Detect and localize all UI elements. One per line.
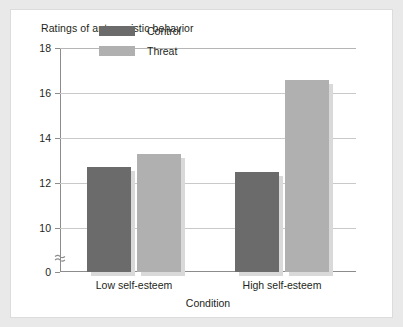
- x-axis-title: Condition: [186, 297, 230, 309]
- legend-label-threat: Threat: [147, 45, 177, 57]
- legend-item-threat: Threat: [99, 42, 181, 59]
- plot-area: 01012141618 Low self-esteemHigh self-est…: [60, 48, 356, 272]
- bar-threat-1: [137, 154, 181, 272]
- legend-label-control: Control: [147, 25, 181, 37]
- bar-body: [285, 80, 329, 272]
- y-tick-label-18: 18: [39, 42, 51, 54]
- chart-legend: Control Threat: [99, 22, 181, 62]
- bars-layer: [60, 48, 356, 272]
- legend-swatch-control: [99, 26, 135, 36]
- y-tick-label-12: 12: [39, 177, 51, 189]
- bar-threat-2: [285, 80, 329, 272]
- bar-control-2: [235, 172, 279, 272]
- bar-body: [235, 172, 279, 272]
- y-tick-label-16: 16: [39, 87, 51, 99]
- legend-swatch-threat: [99, 46, 135, 56]
- legend-item-control: Control: [99, 22, 181, 39]
- bar-control-1: [87, 167, 131, 272]
- y-tick-label-10: 10: [39, 222, 51, 234]
- x-tick-label-2: High self-esteem: [243, 279, 322, 291]
- bar-body: [137, 154, 181, 272]
- bar-body: [87, 167, 131, 272]
- y-tick-label-14: 14: [39, 132, 51, 144]
- y-tick-label-0: 0: [45, 266, 51, 278]
- chart-figure: Ratings of antagonistic behavior 0101214…: [11, 10, 392, 317]
- y-tick-0: [55, 272, 60, 273]
- x-tick-label-1: Low self-esteem: [96, 279, 172, 291]
